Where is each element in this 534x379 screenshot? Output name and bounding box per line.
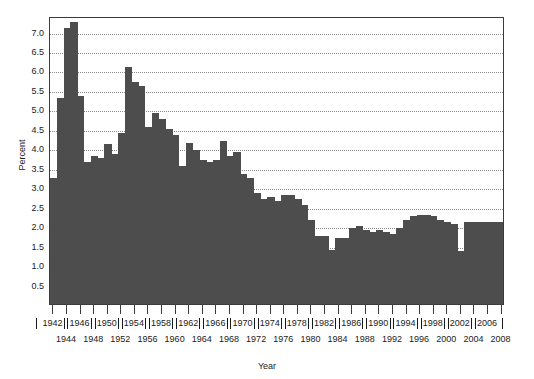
x-tick-label-upper: 1978 xyxy=(283,319,311,328)
x-tick xyxy=(188,305,189,314)
x-tick-label-upper: 1950 xyxy=(93,319,121,328)
y-tick-label: 4.5 xyxy=(31,126,44,135)
y-tick-label: 1.0 xyxy=(31,262,44,271)
x-tick xyxy=(378,305,379,314)
x-label-separator xyxy=(281,318,282,329)
x-tick xyxy=(215,305,216,314)
y-tick-label: 7.0 xyxy=(31,29,44,38)
y-tick-label: 5.0 xyxy=(31,106,44,115)
x-tick xyxy=(52,305,53,314)
x-tick-label-upper: 1990 xyxy=(364,319,392,328)
x-label-separator xyxy=(471,318,472,329)
x-tick-label-lower: 1976 xyxy=(269,335,297,344)
x-label-separator xyxy=(172,318,173,329)
chart-figure: 0.51.01.52.02.53.03.54.04.55.05.56.06.57… xyxy=(0,0,534,379)
x-tick-label-lower: 1972 xyxy=(242,335,270,344)
x-tick-label-lower: 1964 xyxy=(188,335,216,344)
y-tick-label: 2.5 xyxy=(31,204,44,213)
y-tick-label: 6.0 xyxy=(31,67,44,76)
x-tick-label-lower: 1944 xyxy=(52,335,80,344)
y-tick-label: 3.0 xyxy=(31,184,44,193)
x-tick-label-upper: 1994 xyxy=(392,319,420,328)
x-tick xyxy=(107,305,108,314)
y-axis-title: Percent xyxy=(17,125,27,185)
y-tick-label: 6.5 xyxy=(31,48,44,57)
x-tick-label-lower: 1988 xyxy=(351,335,379,344)
x-tick-label-upper: 1974 xyxy=(256,319,284,328)
y-tick-label: 1.5 xyxy=(31,243,44,252)
x-axis-title: Year xyxy=(0,361,534,371)
x-label-separator xyxy=(502,318,503,329)
x-label-separator xyxy=(36,318,37,329)
bar-series xyxy=(50,18,503,304)
x-tick xyxy=(161,305,162,314)
x-tick xyxy=(66,305,67,314)
x-tick-label-lower: 1948 xyxy=(79,335,107,344)
x-tick xyxy=(147,305,148,314)
x-label-separator xyxy=(308,318,309,329)
x-tick xyxy=(473,305,474,314)
x-tick xyxy=(270,305,271,314)
x-tick-label-upper: 1970 xyxy=(229,319,257,328)
x-tick-label-upper: 1958 xyxy=(147,319,175,328)
y-tick-label: 4.0 xyxy=(31,145,44,154)
x-tick xyxy=(243,305,244,314)
x-label-separator xyxy=(335,318,336,329)
x-label-separator xyxy=(64,318,65,329)
x-tick xyxy=(487,305,488,314)
x-tick xyxy=(338,305,339,314)
x-tick-label-upper: 2002 xyxy=(446,319,474,328)
x-tick-label-lower: 1960 xyxy=(161,335,189,344)
x-tick xyxy=(324,305,325,314)
x-tick xyxy=(501,305,502,314)
x-tick-label-lower: 1952 xyxy=(106,335,134,344)
x-label-separator xyxy=(362,318,363,329)
x-tick-label-lower: 2008 xyxy=(487,335,515,344)
x-tick xyxy=(283,305,284,314)
x-tick-label-upper: 1986 xyxy=(337,319,365,328)
x-tick xyxy=(80,305,81,314)
x-label-separator xyxy=(118,318,119,329)
x-tick-label-lower: 2000 xyxy=(432,335,460,344)
x-tick-label-upper: 1942 xyxy=(38,319,66,328)
x-tick-label-lower: 1980 xyxy=(296,335,324,344)
x-tick xyxy=(310,305,311,314)
x-tick xyxy=(446,305,447,314)
bar xyxy=(498,222,504,304)
x-label-separator xyxy=(227,318,228,329)
x-tick-label-upper: 1998 xyxy=(419,319,447,328)
x-tick xyxy=(297,305,298,314)
x-tick xyxy=(120,305,121,314)
x-tick xyxy=(134,305,135,314)
x-label-separator xyxy=(254,318,255,329)
x-label-separator xyxy=(145,318,146,329)
y-tick-label: 2.0 xyxy=(31,223,44,232)
x-tick xyxy=(202,305,203,314)
x-tick-label-lower: 1996 xyxy=(405,335,433,344)
x-tick xyxy=(93,305,94,314)
x-tick-label-lower: 2004 xyxy=(459,335,487,344)
x-tick-label-lower: 1984 xyxy=(324,335,352,344)
x-tick xyxy=(351,305,352,314)
y-tick-label: 0.5 xyxy=(31,282,44,291)
x-tick-label-lower: 1968 xyxy=(215,335,243,344)
x-label-separator xyxy=(417,318,418,329)
x-tick-label-upper: 1954 xyxy=(120,319,148,328)
x-tick xyxy=(175,305,176,314)
x-tick-label-upper: 1966 xyxy=(201,319,229,328)
x-tick xyxy=(392,305,393,314)
x-tick xyxy=(433,305,434,314)
x-label-separator xyxy=(199,318,200,329)
x-tick-label-upper: 1962 xyxy=(174,319,202,328)
x-label-separator xyxy=(390,318,391,329)
y-tick-label: 5.5 xyxy=(31,87,44,96)
x-tick-label-upper: 2006 xyxy=(473,319,501,328)
x-tick xyxy=(406,305,407,314)
x-tick-label-lower: 1992 xyxy=(378,335,406,344)
x-tick-label-upper: 1982 xyxy=(310,319,338,328)
x-tick xyxy=(365,305,366,314)
x-tick-label-lower: 1956 xyxy=(133,335,161,344)
plot-area xyxy=(49,17,504,305)
x-tick xyxy=(256,305,257,314)
x-label-separator xyxy=(444,318,445,329)
